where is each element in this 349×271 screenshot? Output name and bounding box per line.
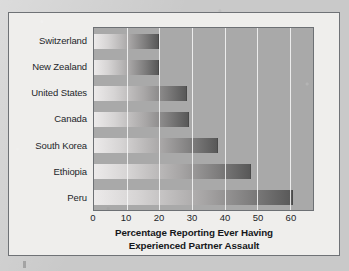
bar-row xyxy=(94,158,313,184)
bar-switzerland xyxy=(94,34,159,49)
bar-row xyxy=(94,54,313,80)
bar-ethiopia xyxy=(94,164,251,179)
x-tick-label-30: 30 xyxy=(187,212,198,223)
figure-frame: Switzerland New Zealand United States Ca… xyxy=(8,12,340,256)
x-axis-title-line-1: Percentage Reporting Ever Having xyxy=(69,227,319,240)
x-tick-label-60: 60 xyxy=(286,212,297,223)
category-label-peru: Peru xyxy=(9,185,93,211)
bar-row xyxy=(94,80,313,106)
category-label-south-korea: South Korea xyxy=(9,132,93,158)
bar-new-zealand xyxy=(94,60,159,75)
bar-canada xyxy=(94,112,189,127)
x-tick-label-20: 20 xyxy=(154,212,165,223)
x-tick-label-10: 10 xyxy=(121,212,132,223)
bar-row xyxy=(94,106,313,132)
x-tick-label-40: 40 xyxy=(220,212,231,223)
bar-peru xyxy=(94,190,293,205)
category-label-new-zealand: New Zealand xyxy=(9,53,93,79)
x-tick-label-0: 0 xyxy=(90,212,95,223)
category-label-canada: Canada xyxy=(9,106,93,132)
category-label-switzerland: Switzerland xyxy=(9,27,93,53)
x-axis-title-line-2: Experienced Partner Assault xyxy=(69,240,319,253)
category-label-ethiopia: Ethiopia xyxy=(9,158,93,184)
x-tick-label-50: 50 xyxy=(253,212,264,223)
bar-row xyxy=(94,28,313,54)
bar-row xyxy=(94,184,313,210)
x-axis-tick-labels: 0102030405060 xyxy=(93,212,314,226)
scan-artifact-mark xyxy=(23,261,26,268)
category-label-united-states: United States xyxy=(9,80,93,106)
bar-united-states xyxy=(94,86,187,101)
bar-south-korea xyxy=(94,138,218,153)
x-axis-title: Percentage Reporting Ever Having Experie… xyxy=(69,227,319,252)
category-axis-labels: Switzerland New Zealand United States Ca… xyxy=(9,27,93,211)
bar-series xyxy=(94,28,313,210)
plot-area xyxy=(93,27,314,211)
bar-row xyxy=(94,132,313,158)
